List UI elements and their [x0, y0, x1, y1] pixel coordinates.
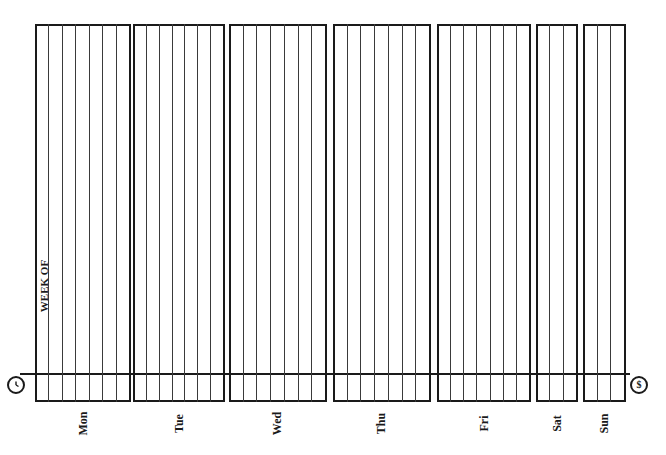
- entry-row-line: [563, 24, 564, 402]
- entry-row-line: [159, 24, 160, 402]
- entry-row-line: [333, 24, 335, 402]
- entry-row-line: [298, 24, 299, 402]
- day-label-thu: Thu: [362, 408, 402, 438]
- entry-row-line: [146, 24, 147, 402]
- entry-row-line: [243, 24, 244, 402]
- day-column-sun: [583, 24, 626, 402]
- day-label-text: Thu: [374, 412, 389, 433]
- entry-row-line: [172, 24, 173, 402]
- day-label-text: Tue: [172, 414, 187, 433]
- entry-row-line: [516, 24, 517, 402]
- entry-row-line: [48, 24, 49, 402]
- entry-row-line: [388, 24, 389, 402]
- day-label-text: Mon: [76, 411, 91, 435]
- day-column-tue: [133, 24, 225, 402]
- entry-row-line: [133, 24, 135, 402]
- day-label-text: Sun: [597, 413, 612, 433]
- dollar-icon: $: [630, 376, 648, 394]
- clock-icon: [7, 376, 25, 394]
- entry-row-line: [256, 24, 257, 402]
- entry-row-line: [463, 24, 464, 402]
- day-column-mon: [35, 24, 131, 402]
- day-column-sat: [536, 24, 578, 402]
- day-label-fri: Fri: [464, 408, 504, 438]
- entry-row-line: [347, 24, 348, 402]
- column-top-border: [536, 24, 578, 26]
- entry-row-line: [35, 24, 37, 402]
- entry-row-line: [415, 24, 416, 402]
- column-bottom-border: [536, 400, 578, 402]
- entry-row-line: [597, 24, 598, 402]
- entry-row-line: [325, 24, 327, 402]
- entry-row-line: [116, 24, 117, 402]
- entry-row-line: [75, 24, 76, 402]
- entry-row-line: [549, 24, 550, 402]
- entry-row-line: [583, 24, 585, 402]
- dollar-glyph: $: [637, 380, 642, 390]
- entry-row-line: [536, 24, 538, 402]
- entry-row-line: [624, 24, 626, 402]
- entry-row-line: [89, 24, 90, 402]
- entry-row-line: [210, 24, 211, 402]
- day-label-text: Wed: [271, 411, 286, 434]
- day-column-fri: [437, 24, 531, 402]
- entry-row-line: [450, 24, 451, 402]
- entry-row-line: [576, 24, 578, 402]
- column-top-border: [583, 24, 626, 26]
- entry-row-line: [197, 24, 198, 402]
- entry-row-line: [223, 24, 225, 402]
- day-label-sun: Sun: [585, 408, 625, 438]
- entry-row-line: [610, 24, 611, 402]
- day-label-mon: Mon: [63, 408, 103, 438]
- entry-row-line: [490, 24, 491, 402]
- day-label-text: Sat: [549, 415, 564, 432]
- entry-row-line: [529, 24, 531, 402]
- day-column-wed: [229, 24, 327, 402]
- entry-row-line: [284, 24, 285, 402]
- entry-row-line: [62, 24, 63, 402]
- entry-row-line: [476, 24, 477, 402]
- entry-row-line: [437, 24, 439, 402]
- entry-row-line: [311, 24, 312, 402]
- column-bottom-border: [583, 400, 626, 402]
- entry-row-line: [429, 24, 431, 402]
- entry-row-line: [102, 24, 103, 402]
- entry-row-line: [503, 24, 504, 402]
- day-label-tue: Tue: [159, 408, 199, 438]
- day-label-wed: Wed: [258, 408, 298, 438]
- entry-row-line: [129, 24, 131, 402]
- day-column-thu: [333, 24, 431, 402]
- entry-row-line: [402, 24, 403, 402]
- entry-row-line: [360, 24, 361, 402]
- entry-row-line: [270, 24, 271, 402]
- entry-row-line: [229, 24, 231, 402]
- day-label-sat: Sat: [537, 408, 577, 438]
- entry-row-line: [374, 24, 375, 402]
- entry-row-line: [184, 24, 185, 402]
- day-label-text: Fri: [477, 415, 492, 431]
